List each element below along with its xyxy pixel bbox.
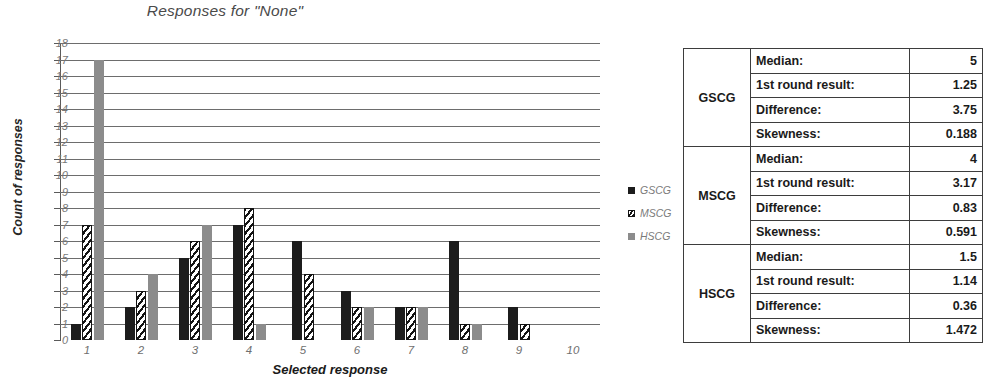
bar	[136, 291, 146, 341]
bar	[244, 208, 254, 340]
table-cell-label: 1st round result:	[751, 73, 910, 98]
bar-group	[168, 43, 222, 340]
bar	[406, 307, 416, 340]
chart-panel: Responses for "None" Count of responses …	[0, 0, 672, 387]
y-axis-tick-label: 13	[28, 120, 68, 132]
x-axis-tick-label: 2	[114, 344, 168, 356]
y-axis-tick-label: 2	[28, 301, 68, 313]
x-axis-tick-label: 9	[492, 344, 546, 356]
plot-area	[60, 43, 600, 340]
x-axis-tick-label: 8	[438, 344, 492, 356]
bar-group	[114, 43, 168, 340]
table-cell-value: 0.188	[910, 122, 983, 147]
x-axis-tick-label: 10	[546, 344, 600, 356]
table-cell-label: 1st round result:	[751, 269, 910, 294]
table-cell-value: 4	[910, 147, 983, 172]
bar-group	[222, 43, 276, 340]
y-axis-tick-label: 16	[28, 70, 68, 82]
y-axis-tick-label: 18	[28, 37, 68, 49]
legend-swatch-icon	[628, 233, 635, 240]
x-axis-tick-label: 7	[384, 344, 438, 356]
legend-swatch-icon	[628, 187, 635, 194]
table-cell-value: 1.472	[910, 318, 983, 343]
table-cell-label: Median:	[751, 147, 910, 172]
table-cell-label: Median:	[751, 245, 910, 270]
y-axis-tick-label: 6	[28, 235, 68, 247]
table-cell-label: Difference:	[751, 98, 910, 123]
bar	[202, 225, 212, 341]
table-cell-value: 0.36	[910, 294, 983, 319]
legend-item-mscg[interactable]: MSCG	[628, 207, 672, 219]
table-row: HSCGMedian:1.5	[684, 245, 983, 270]
bar-group	[492, 43, 546, 340]
table-cell-label: Difference:	[751, 196, 910, 221]
bar-group	[384, 43, 438, 340]
bar	[352, 307, 362, 340]
table-row: MSCGMedian:4	[684, 147, 983, 172]
table-cell-value: 1.25	[910, 73, 983, 98]
statistics-table: GSCGMedian:51st round result:1.25Differe…	[683, 48, 983, 343]
y-axis-tick-label: 15	[28, 87, 68, 99]
legend-item-gscg[interactable]: GSCG	[628, 184, 672, 196]
y-axis-tick-label: 14	[28, 103, 68, 115]
y-axis-tick-label: 4	[28, 268, 68, 280]
x-axis-tick-label: 5	[276, 344, 330, 356]
chart-legend: GSCGMSCGHSCG	[628, 184, 672, 253]
y-axis-tick-label: 9	[28, 186, 68, 198]
x-axis-tick-label: 3	[168, 344, 222, 356]
x-axis-title: Selected response	[60, 362, 600, 377]
table-cell-group: HSCG	[684, 245, 751, 343]
y-axis-tick-label: 1	[28, 318, 68, 330]
bar	[449, 241, 459, 340]
bar-group	[330, 43, 384, 340]
bar	[94, 60, 104, 341]
bar	[190, 241, 200, 340]
x-axis-tick-label: 6	[330, 344, 384, 356]
y-axis-tick-label: 10	[28, 169, 68, 181]
table-cell-label: 1st round result:	[751, 171, 910, 196]
bar	[179, 258, 189, 341]
legend-item-hscg[interactable]: HSCG	[628, 230, 672, 242]
table-cell-label: Difference:	[751, 294, 910, 319]
bar	[125, 307, 135, 340]
legend-item-label: HSCG	[640, 230, 670, 242]
legend-swatch-icon	[628, 210, 635, 217]
x-axis-tick-label: 4	[222, 344, 276, 356]
table-cell-value: 1.14	[910, 269, 983, 294]
bar	[508, 307, 518, 340]
y-axis-tick-label: 11	[28, 153, 68, 165]
bar	[520, 324, 530, 341]
x-axis-tick-label: 1	[60, 344, 114, 356]
table-cell-label: Median:	[751, 49, 910, 74]
y-axis-title: Count of responses	[11, 107, 25, 247]
bar	[395, 307, 405, 340]
bar	[148, 274, 158, 340]
bar-group	[276, 43, 330, 340]
bar	[82, 225, 92, 341]
bar-group	[60, 43, 114, 340]
bar	[472, 324, 482, 341]
table-row: GSCGMedian:5	[684, 49, 983, 74]
bar-group	[546, 43, 600, 340]
legend-item-label: GSCG	[640, 184, 671, 196]
bar	[364, 307, 374, 340]
bar	[233, 225, 243, 341]
bar	[71, 324, 81, 341]
bar-series-container	[60, 43, 600, 340]
y-axis-tick-label: 5	[28, 252, 68, 264]
table-cell-value: 3.17	[910, 171, 983, 196]
table-cell-group: MSCG	[684, 147, 751, 245]
table-cell-value: 3.75	[910, 98, 983, 123]
chart-title: Responses for "None"	[0, 2, 450, 20]
table-cell-value: 5	[910, 49, 983, 74]
bar	[256, 324, 266, 341]
bar	[304, 274, 314, 340]
bar-group	[438, 43, 492, 340]
y-axis-tick-label: 3	[28, 285, 68, 297]
bar	[341, 291, 351, 341]
table-cell-label: Skewness:	[751, 220, 910, 245]
table-cell-group: GSCG	[684, 49, 751, 147]
bar	[460, 324, 470, 341]
table-cell-value: 1.5	[910, 245, 983, 270]
y-axis-tick-label: 12	[28, 136, 68, 148]
